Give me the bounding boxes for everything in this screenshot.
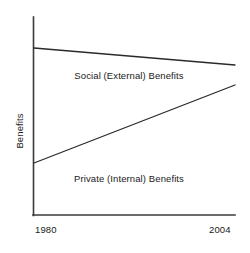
chart-text-layer: Benefits Social (External) Benefits Priv…: [0, 0, 250, 253]
x-axis-tick-label-start: 1980: [35, 225, 57, 235]
private-benefits-label: Private (Internal) Benefits: [74, 174, 184, 184]
y-axis-title: Benefits: [15, 113, 25, 148]
x-axis-tick-label-end: 2004: [209, 225, 231, 235]
benefits-chart: Benefits Social (External) Benefits Priv…: [0, 0, 250, 253]
social-benefits-label: Social (External) Benefits: [74, 71, 183, 81]
